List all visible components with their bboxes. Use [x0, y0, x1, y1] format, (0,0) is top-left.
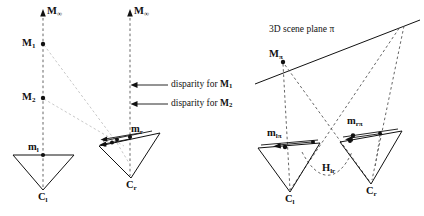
- ray-mpi-to-left-camera: [283, 64, 290, 190]
- projected-point-extra-dot: [110, 141, 114, 145]
- projected-point-m1r-dot: [115, 138, 119, 142]
- label-camera-right: Cr: [126, 180, 137, 192]
- ray-farplane-to-right-camera: [372, 26, 404, 180]
- label-right-panel-camera-right: Cr: [366, 186, 377, 198]
- right-panel-left-camera-frustum: [258, 143, 320, 192]
- label-m-infinity-left: M∞: [47, 6, 62, 18]
- left-axis-arrowhead-icon: [40, 9, 46, 17]
- ray-m1-to-right-camera: [44, 45, 117, 143]
- right-panel-right-plane-dot2: [378, 132, 382, 136]
- image-point-ml-dot: [41, 153, 45, 157]
- projected-point-m2r-dot: [103, 143, 107, 147]
- label-image-point-ml: ml: [28, 142, 39, 154]
- right-panel-right-plane-dot: [348, 139, 352, 143]
- label-right-panel-camera-left: Cl: [285, 194, 295, 206]
- annotation-disparity-for-m2: disparity for M2: [171, 99, 232, 109]
- image-point-mrpi-dot: [351, 133, 355, 137]
- label-scene-plane: 3D scene plane π: [269, 25, 334, 35]
- left-camera-frustum: [13, 155, 74, 190]
- annotation-arrow-disparity-m1: [131, 82, 169, 88]
- label-m-infinity-right: M∞: [134, 6, 149, 18]
- point-m1-dot: [41, 42, 45, 46]
- label-image-point-mlpi: mlπ: [267, 128, 282, 140]
- figure-container: M∞ M∞ M1 M2 ml mr Cl Cr disparity for M1…: [0, 0, 424, 216]
- right-axis-arrowhead-icon: [127, 9, 133, 17]
- label-point-m-pi: Mπ: [269, 49, 283, 61]
- annotation-disparity-for-m1: disparity for M1: [171, 80, 232, 90]
- label-camera-left: Cl: [38, 192, 48, 204]
- left-panel-graphics: [13, 9, 168, 190]
- label-point-m2: M2: [22, 92, 35, 104]
- annotation-arrow-disparity-m2: [131, 101, 169, 107]
- image-point-mlpi-dot: [283, 145, 287, 149]
- point-m2-dot: [41, 96, 45, 100]
- right-panel-graphics: [255, 20, 420, 192]
- right-panel-left-plane-dot: [311, 140, 315, 144]
- label-homography: Hlr: [322, 163, 335, 175]
- label-point-m1: M1: [22, 38, 35, 50]
- right-panel-right-camera-axis: [375, 135, 380, 168]
- label-image-point-mrpi: mrπ: [347, 116, 363, 128]
- label-image-point-mr: mr: [131, 124, 143, 136]
